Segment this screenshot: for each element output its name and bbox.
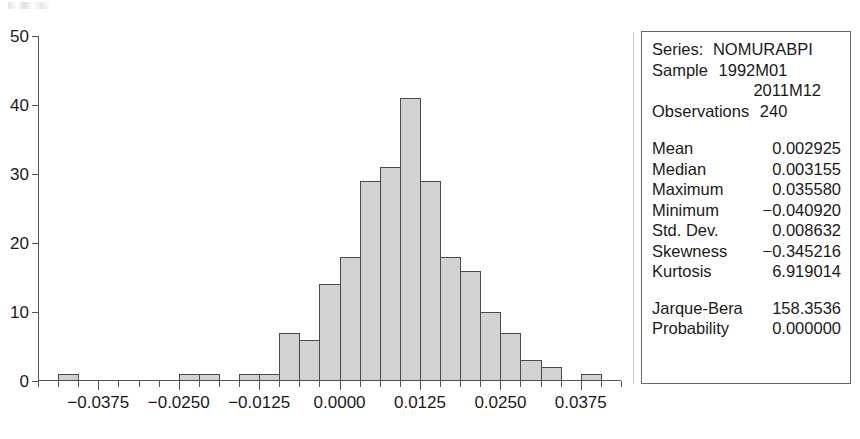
histogram-figure: 01020304050 −0.0375−0.0250−0.01250.00000… [0,0,860,439]
y-tick-mark [32,312,38,313]
x-tick-label: 0.0000 [314,394,366,411]
histogram-bar [380,167,401,381]
histogram-bar [319,284,340,381]
jarque-bera-row: Jarque-Bera158.3536 [642,298,850,319]
y-axis-line [38,36,39,381]
x-tick-mark-minor [78,381,79,387]
stats-spacer-2 [642,282,850,298]
x-tick-mark-minor [621,381,622,387]
stats-spacer [642,121,850,138]
x-tick-label: −0.0125 [228,394,290,411]
skewness-value: −0.345216 [763,241,841,262]
histogram-bar [440,257,461,381]
sample-label: Sample [652,60,708,81]
y-tick-label: 30 [10,166,29,183]
minimum-value: −0.040920 [763,200,841,221]
x-tick-mark-minor [541,381,542,387]
y-tick-label: 20 [10,235,29,252]
mean-value: 0.002925 [772,138,841,159]
x-tick-mark-minor [299,381,300,387]
std-dev-label: Std. Dev. [652,220,719,241]
sample-end-row: 2011M12 [642,80,850,101]
y-tick-mark [32,105,38,106]
histogram-bar [279,333,300,381]
x-tick-mark-minor [400,381,401,387]
histogram-bar [500,333,521,381]
x-tick-mark-minor [58,381,59,387]
mean-row: Mean0.002925 [642,138,850,159]
y-tick-label: 0 [20,373,29,390]
jarque-bera-value: 158.3536 [772,298,841,319]
histogram-bar [340,257,361,381]
x-tick-label: 0.0125 [394,394,446,411]
panel-divider [633,32,634,384]
histogram-bar [520,360,541,381]
kurtosis-value: 6.919014 [772,261,841,282]
maximum-value: 0.035580 [772,179,841,200]
x-tick-mark-minor [319,381,320,387]
series-row: Series: NOMURABPI [642,39,850,60]
sample-row: Sample 1992M01 [642,60,850,81]
x-tick-label: −0.0375 [67,394,129,411]
y-tick-mark [32,174,38,175]
histogram-bar [239,374,260,381]
histogram-bar [58,374,79,381]
x-tick-mark-major [500,381,501,390]
x-tick-mark-minor [159,381,160,387]
observations-label: Observations [652,101,749,122]
x-tick-mark-major [420,381,421,390]
y-tick-label: 50 [10,28,29,45]
x-tick-mark-minor [139,381,140,387]
probability-row: Probability0.000000 [642,318,850,339]
histogram-bar [199,374,220,381]
x-tick-mark-minor [360,381,361,387]
x-tick-mark-minor [219,381,220,387]
descriptive-stats-rows: Mean0.002925Median0.003155Maximum0.03558… [642,138,850,282]
maximum-row: Maximum0.035580 [642,179,850,200]
x-tick-mark-minor [440,381,441,387]
x-tick-mark-major [581,381,582,390]
median-label: Median [652,159,706,180]
histogram-bar [179,374,200,381]
series-label: Series: [652,39,703,60]
median-row: Median0.003155 [642,159,850,180]
y-tick-label: 10 [10,304,29,321]
jarque-bera-label: Jarque-Bera [652,298,743,319]
observations-row: Observations 240 [642,101,850,122]
minimum-label: Minimum [652,200,719,221]
skewness-row: Skewness−0.345216 [642,241,850,262]
x-tick-mark-minor [460,381,461,387]
std-dev-row: Std. Dev.0.008632 [642,220,850,241]
x-tick-mark-major [340,381,341,390]
y-tick-mark [32,36,38,37]
x-tick-mark-minor [601,381,602,387]
skewness-label: Skewness [652,241,727,262]
minimum-row: Minimum−0.040920 [642,200,850,221]
x-tick-mark-minor [118,381,119,387]
sample-end: 2011M12 [753,80,821,101]
series-name: NOMURABPI [713,39,813,60]
histogram-bar [259,374,280,381]
x-tick-mark-minor [239,381,240,387]
mean-label: Mean [652,138,693,159]
histogram-bar [400,98,421,381]
kurtosis-row: Kurtosis6.919014 [642,261,850,282]
plot-area: 01020304050 −0.0375−0.0250−0.01250.00000… [38,36,621,381]
histogram-bar [541,367,562,381]
x-tick-mark-major [179,381,180,390]
histogram-bar [460,271,481,381]
x-tick-label: 0.0250 [474,394,526,411]
histogram-bar [420,181,441,381]
x-tick-label: −0.0250 [148,394,210,411]
x-tick-mark-minor [561,381,562,387]
sample-start: 1992M01 [719,60,788,81]
maximum-label: Maximum [652,179,724,200]
chart-panel: 01020304050 −0.0375−0.0250−0.01250.00000… [0,0,636,439]
statistics-box: Series: NOMURABPI Sample 1992M01 2011M12… [641,31,851,384]
histogram-bar [360,181,381,381]
x-tick-mark-minor [380,381,381,387]
histogram-bar [581,374,602,381]
observations-value: 240 [760,101,788,122]
x-tick-label: 0.0375 [555,394,607,411]
probability-label: Probability [652,318,729,339]
